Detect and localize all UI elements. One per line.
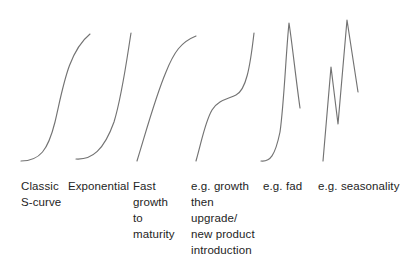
caption-growth-then-upgrade: e.g. growth then upgrade/ new product in… xyxy=(191,178,263,258)
caption-exponential: Exponential xyxy=(68,178,138,194)
caption-fast-growth-to-maturity: Fast growth to maturity xyxy=(133,178,195,242)
growth-curves-figure: Classic S-curve Exponential Fast growth … xyxy=(0,0,413,269)
caption-fad: e.g. fad xyxy=(263,178,315,194)
caption-seasonality: e.g. seasonality xyxy=(318,178,413,194)
curve-captions: Classic S-curve Exponential Fast growth … xyxy=(0,0,413,269)
